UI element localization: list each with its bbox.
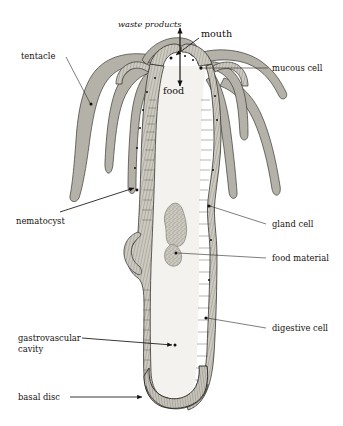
gastrovascular-cavity-dot: [174, 344, 177, 347]
mucous-cell-dot: [199, 66, 202, 69]
label-food: food: [163, 85, 184, 96]
hydra-diagram-canvas: waste products mouth food tentacle mucou…: [0, 0, 343, 426]
label-gastrovascular-cavity-line1: gastrovascular: [18, 333, 81, 343]
hydra-diagram-figure: waste products mouth food tentacle mucou…: [0, 0, 343, 426]
label-mouth: mouth: [201, 28, 232, 39]
label-digestive-cell: digestive cell: [272, 323, 328, 333]
label-nematocyst: nematocyst: [16, 216, 65, 226]
label-tentacle: tentacle: [21, 51, 55, 61]
label-waste-products: waste products: [118, 19, 182, 29]
label-mucous-cell: mucous cell: [272, 63, 323, 73]
mucous-cell-dot-2: [170, 57, 173, 60]
label-gland-cell: gland cell: [272, 219, 314, 229]
label-food-material: food material: [272, 253, 329, 263]
food-material-dot: [175, 252, 178, 255]
label-gastrovascular-cavity-line2: cavity: [18, 344, 43, 354]
nematocyst-dot: [136, 189, 139, 192]
label-basal-disc: basal disc: [18, 392, 60, 402]
